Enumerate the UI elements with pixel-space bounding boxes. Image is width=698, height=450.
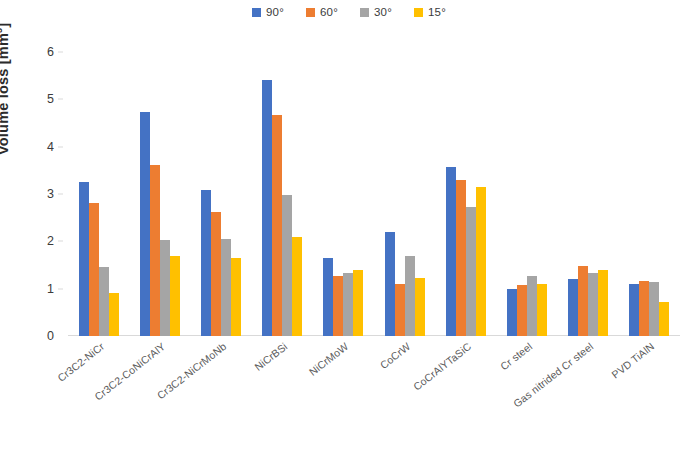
y-axis-tick-label: 6: [47, 45, 54, 59]
bar-group-bars: [385, 52, 425, 336]
bar[interactable]: [140, 112, 150, 336]
bar-group-bars: [262, 52, 302, 336]
bar[interactable]: [99, 267, 109, 336]
legend-item[interactable]: 30°: [360, 6, 392, 18]
legend-swatch-icon: [360, 8, 369, 17]
legend-item[interactable]: 60°: [306, 6, 338, 18]
bar-group: NiCrMoW: [323, 52, 363, 336]
bar[interactable]: [588, 273, 598, 336]
y-axis-tick-mark: [58, 288, 63, 289]
bar-group-bars: [507, 52, 547, 336]
bar[interactable]: [272, 115, 282, 336]
bar[interactable]: [385, 232, 395, 336]
legend-label: 15°: [428, 6, 446, 18]
bar[interactable]: [343, 273, 353, 336]
legend-label: 30°: [374, 6, 392, 18]
bar[interactable]: [160, 240, 170, 336]
bar-group: Cr3C2-NiCr: [79, 52, 119, 336]
bar[interactable]: [507, 289, 517, 336]
plot-area: Cr3C2-NiCrCr3C2-CoNiCrAlYCr3C2-NiCrMoNbN…: [68, 52, 680, 336]
bar-group: CoCrAlYTaSiC: [446, 52, 486, 336]
bar[interactable]: [262, 80, 272, 336]
bar-group-bars: [446, 52, 486, 336]
bar[interactable]: [221, 239, 231, 336]
bar-group: Cr steel: [507, 52, 547, 336]
x-axis-category-label-text: NiCrMoW: [307, 340, 351, 378]
bar[interactable]: [323, 258, 333, 336]
y-axis-tick-mark: [58, 52, 63, 53]
bar-group-bars: [201, 52, 241, 336]
legend-label: 60°: [320, 6, 338, 18]
legend-item[interactable]: 90°: [252, 6, 284, 18]
bar[interactable]: [292, 237, 302, 336]
bar[interactable]: [466, 207, 476, 336]
bar-group-bars: [629, 52, 669, 336]
bar[interactable]: [333, 276, 343, 336]
y-axis-tick-mark: [58, 99, 63, 100]
x-axis-category-label-text: PVD TiAlN: [610, 340, 657, 381]
legend-swatch-icon: [414, 8, 423, 17]
legend-item[interactable]: 15°: [414, 6, 446, 18]
y-axis-tick-label: 4: [47, 140, 54, 154]
bar[interactable]: [527, 276, 537, 336]
bar-group: Gas nitrided Cr steel: [568, 52, 608, 336]
y-axis-tick-mark: [58, 241, 63, 242]
bar-group: Cr3C2-NiCrMoNb: [201, 52, 241, 336]
bar-group-bars: [323, 52, 363, 336]
bar[interactable]: [476, 187, 486, 336]
y-axis-tick-mark: [58, 146, 63, 147]
bar-group: CoCrW: [385, 52, 425, 336]
legend-label: 90°: [266, 6, 284, 18]
x-axis-category-label-text: NiCrBSi: [252, 340, 289, 373]
y-axis-tick-mark: [58, 194, 63, 195]
bar-group-bars: [140, 52, 180, 336]
bar[interactable]: [578, 266, 588, 336]
bar[interactable]: [405, 256, 415, 336]
bar[interactable]: [282, 195, 292, 336]
y-axis-title: Volume loss [mm3]: [0, 23, 11, 155]
x-axis-category-label-text: CoCrW: [377, 340, 412, 371]
bar[interactable]: [79, 182, 89, 336]
bar[interactable]: [629, 284, 639, 336]
y-axis-tick-label: 0: [47, 329, 54, 343]
bar[interactable]: [639, 281, 649, 336]
bar-chart: 90°60°30°15° 0123456 Volume loss [mm3] C…: [0, 0, 698, 450]
bar[interactable]: [89, 203, 99, 336]
bar-group: PVD TiAlN: [629, 52, 669, 336]
bar[interactable]: [201, 190, 211, 336]
bar-group: Cr3C2-CoNiCrAlY: [140, 52, 180, 336]
bar[interactable]: [395, 284, 405, 336]
bar[interactable]: [446, 167, 456, 336]
x-axis-category-label-text: Cr steel: [498, 340, 535, 372]
y-axis-tick-label: 1: [47, 282, 54, 296]
bar[interactable]: [456, 180, 466, 336]
chart-legend: 90°60°30°15°: [0, 6, 698, 18]
bar[interactable]: [211, 212, 221, 336]
bar-group-bars: [568, 52, 608, 336]
bar[interactable]: [150, 165, 160, 336]
y-axis-tick-label: 3: [47, 187, 54, 201]
legend-swatch-icon: [306, 8, 315, 17]
bar[interactable]: [649, 282, 659, 336]
bar-group: NiCrBSi: [262, 52, 302, 336]
y-axis-tick-label: 5: [47, 92, 54, 106]
legend-swatch-icon: [252, 8, 261, 17]
x-axis-category-label-text: Cr3C2-NiCr: [55, 340, 106, 384]
x-axis-category-label-text: CoCrAlYTaSiC: [411, 340, 474, 393]
y-axis-tick-label: 2: [47, 234, 54, 248]
bar[interactable]: [568, 279, 578, 336]
bar[interactable]: [517, 285, 527, 336]
bar-group-bars: [79, 52, 119, 336]
